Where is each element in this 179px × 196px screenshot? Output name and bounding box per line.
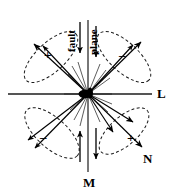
axis-label-N: N <box>143 152 152 165</box>
vector-lower-right-1 <box>88 94 133 122</box>
plane-text-label: plane <box>88 29 99 55</box>
radiation-pattern-figure: L M N fault plane + – – + <box>0 0 179 196</box>
lobe-sign-upper-left: + <box>44 48 51 61</box>
lobe-outline-lower-left <box>17 99 88 167</box>
axis-label-L: L <box>157 87 166 100</box>
lobe-sign-upper-right: – <box>119 48 126 61</box>
vector-lower-left-2 <box>28 94 88 140</box>
axis-label-M: M <box>83 176 95 189</box>
vector-lower-right-2 <box>88 94 113 132</box>
fault-text-label: fault <box>66 30 77 52</box>
source-point <box>79 88 94 99</box>
lobe-sign-lower-left: – <box>40 130 47 143</box>
lobe-sign-lower-right: + <box>127 131 134 144</box>
